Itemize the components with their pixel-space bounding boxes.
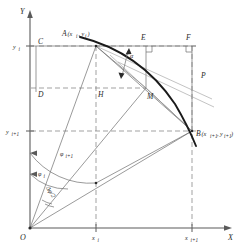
point-label-H: H	[97, 90, 104, 99]
y-tick-yi-sub: i	[19, 46, 21, 52]
angle-label-delta-phi-half: Δφ/2	[45, 184, 58, 199]
phi-i-sub: i	[44, 173, 46, 179]
chord-A-to-B	[96, 46, 192, 131]
arrowhead-phi-i	[30, 172, 37, 178]
phi-i-glyph: φ	[38, 170, 42, 177]
y-tick-yi1-base: y	[5, 128, 9, 135]
x-tick-xi-sub: i	[98, 237, 100, 243]
dot-A	[95, 45, 98, 48]
segment-arcfoot-to-B	[96, 131, 192, 183]
point-label-E: E	[140, 33, 146, 42]
phi-i1-sub: i+1	[66, 153, 74, 159]
point-label-D: D	[37, 90, 44, 99]
x-axis-arrowhead	[224, 225, 232, 231]
y-axis-label: Y	[20, 7, 26, 16]
angle-label-alpha: α	[130, 52, 134, 59]
dot-B	[191, 130, 194, 133]
point-A-open: (x	[68, 30, 73, 38]
y-tick-label-yi1: y i+1	[5, 128, 19, 137]
tangent-ray-at-A	[96, 46, 212, 99]
x-tick-xi1-sub: i+1	[191, 237, 199, 243]
arrowhead-phi-i1	[30, 151, 37, 157]
point-label-B: B (x i+1 , y i+1 )	[196, 129, 233, 139]
point-B-mid: , y	[217, 130, 223, 137]
point-label-F: F	[185, 33, 191, 42]
angle-label-phi-i: φ i	[38, 170, 46, 179]
y-tick-yi-base: y	[12, 43, 16, 50]
point-label-M: M	[146, 92, 154, 101]
angle-label-phi-i1: φ i+1	[60, 150, 73, 159]
right-angle-marker-E	[146, 46, 152, 52]
angle-arc-delta-phi-half-outer	[42, 200, 52, 204]
origin-label: O	[20, 233, 26, 242]
x-tick-label-xi: x i	[91, 234, 100, 243]
point-label-A: A (x i , y i )	[61, 29, 90, 39]
alpha-arrowhead-bottom	[119, 73, 125, 80]
point-B-name: B	[196, 129, 201, 138]
axes-group	[27, 10, 232, 231]
point-label-C: C	[38, 37, 44, 46]
geometry-figure: Y X O y i y i+1 x i x i+1	[0, 0, 244, 249]
radius-O-to-B	[30, 131, 192, 228]
right-angle-markers-group	[146, 46, 192, 52]
point-A-name: A	[61, 29, 67, 38]
dot-origin	[28, 226, 31, 229]
secondary-grey-ray	[118, 62, 214, 107]
point-B-open: (x	[202, 130, 207, 138]
construction-lines-group	[30, 46, 196, 228]
angle-arc-phi-i1	[30, 153, 96, 183]
y-axis-arrowhead	[27, 10, 33, 18]
right-angle-marker-F	[186, 46, 192, 52]
y-tick-label-yi: y i	[12, 43, 21, 52]
y-tick-yi1-sub: i+1	[12, 131, 20, 137]
point-dots-group	[28, 45, 193, 230]
point-B-close: )	[230, 130, 233, 138]
phi-i1-glyph: φ	[60, 150, 64, 157]
radius-O-to-A	[30, 46, 96, 228]
x-axis-label: X	[227, 233, 234, 242]
x-tick-xi1-base: x	[184, 234, 188, 241]
point-A-mid: , y	[79, 30, 85, 37]
dashed-guides-group	[31, 46, 196, 226]
x-tick-xi-base: x	[91, 234, 95, 241]
diagram-canvas: Y X O y i y i+1 x i x i+1	[0, 0, 244, 249]
x-tick-label-xi1: x i+1	[184, 234, 198, 243]
point-A-close: )	[87, 30, 90, 38]
tangent-rays-group	[96, 46, 214, 131]
point-label-P: P	[200, 71, 206, 80]
labels-group: Y X O y i y i+1 x i x i+1	[5, 7, 234, 243]
angle-arcs-group	[30, 151, 96, 208]
dot-arc-foot	[95, 182, 98, 185]
radius-O-to-M	[30, 88, 146, 228]
